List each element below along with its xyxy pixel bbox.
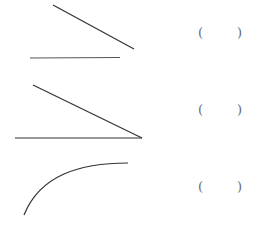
answer-1-close-paren: ): [237, 26, 242, 39]
figure-3-curve: [24, 163, 128, 215]
figure-1-slanted-segment: [53, 5, 134, 49]
answer-2-close-paren: ): [237, 103, 242, 116]
figure-1-horizontal-segment: [30, 58, 120, 59]
figure-2: [15, 85, 142, 138]
answer-1-open-paren: (: [198, 26, 203, 39]
figures-canvas: [0, 0, 261, 235]
answer-3-close-paren: ): [237, 180, 242, 193]
figure-1: [30, 5, 134, 58]
answer-2-open-paren: (: [198, 103, 203, 116]
figure-3: [24, 163, 128, 215]
figure-2-slanted-ray: [33, 85, 142, 138]
answer-3-open-paren: (: [198, 180, 203, 193]
